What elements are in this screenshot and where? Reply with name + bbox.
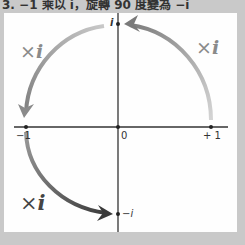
arrow-i-to-neg-one: [26, 26, 104, 112]
label-neg-one: −1: [16, 130, 31, 141]
label-i: i: [110, 17, 113, 28]
multiplier-bottom-left: ×i: [20, 190, 46, 215]
multiplier-top-left: ×i: [20, 40, 43, 62]
label-pos-one: + 1: [203, 130, 221, 141]
label-neg-i: −i: [122, 208, 133, 219]
multiplier-top-right: ×i: [196, 36, 219, 58]
label-zero: 0: [121, 130, 127, 141]
arrowhead-i-icon: [124, 15, 140, 32]
